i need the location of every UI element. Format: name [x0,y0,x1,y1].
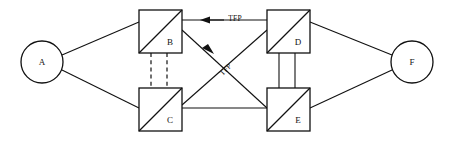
node-d-label: D [295,37,302,47]
network-diagram: A B C D E F [0,0,451,142]
edge-e-f [310,70,392,108]
edge-label-tfp-top: TFP [228,14,242,23]
node-c-label: C [167,115,173,125]
network-diagram-canvas: A B C D E F [0,0,451,142]
arrow-head-tfp-diagonal [202,44,214,54]
node-b-label: B [167,37,173,47]
node-b[interactable]: B [139,10,182,53]
node-e-label: E [295,115,301,125]
node-a-label: A [39,57,46,67]
edge-d-f [310,22,392,55]
node-e[interactable]: E [267,88,310,131]
node-f[interactable]: F [391,41,433,83]
edge-a-c [62,70,139,108]
node-a[interactable]: A [21,41,63,83]
node-d[interactable]: D [267,10,310,53]
node-f-label: F [409,57,414,67]
edge-a-b [62,22,139,55]
node-c[interactable]: C [139,88,182,131]
